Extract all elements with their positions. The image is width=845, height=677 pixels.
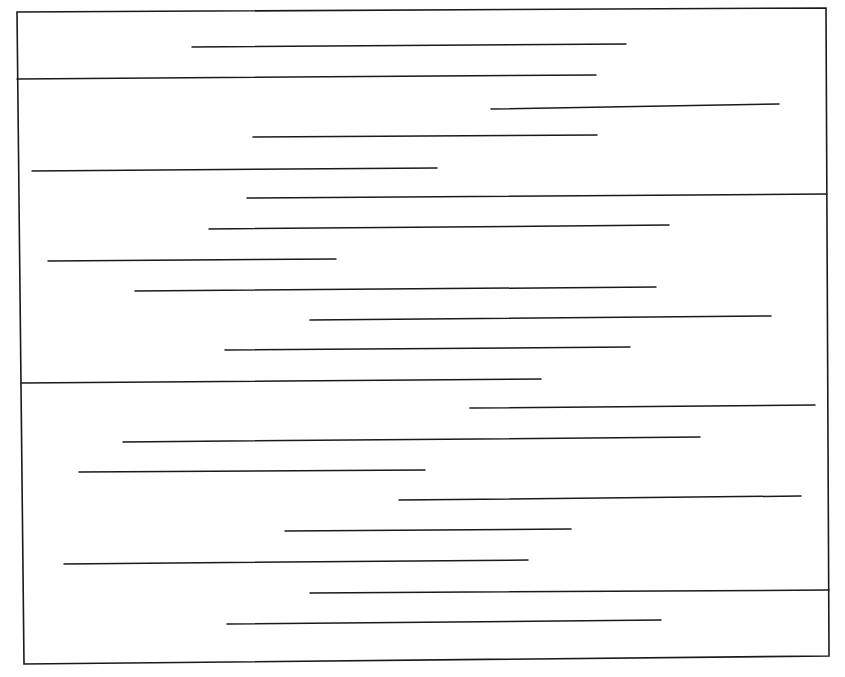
line-segment-14 — [123, 437, 700, 442]
line-segment-6 — [247, 194, 826, 198]
line-segment-16 — [399, 496, 801, 500]
line-segment-4 — [253, 135, 597, 137]
line-segment-9 — [135, 287, 656, 291]
line-segment-5 — [32, 168, 437, 171]
line-segment-2 — [17, 75, 596, 79]
line-segment-diagram — [0, 0, 845, 677]
frame-box — [17, 8, 829, 664]
segments-group — [17, 44, 829, 624]
line-segment-8 — [48, 259, 336, 261]
line-segment-12 — [21, 379, 541, 383]
line-segment-11 — [225, 347, 630, 350]
line-segment-19 — [310, 590, 829, 593]
line-segment-20 — [227, 620, 661, 624]
line-segment-13 — [470, 405, 815, 408]
line-segment-3 — [491, 104, 779, 109]
line-segment-1 — [192, 44, 626, 47]
line-segment-15 — [79, 470, 425, 472]
line-segment-7 — [209, 225, 669, 229]
line-segment-17 — [285, 529, 571, 531]
line-segment-10 — [310, 316, 771, 320]
line-segment-18 — [64, 560, 528, 564]
